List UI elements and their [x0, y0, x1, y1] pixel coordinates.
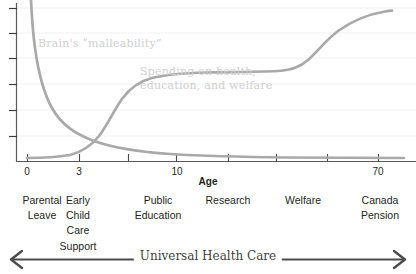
- x-tick-label-3: 3: [76, 166, 82, 177]
- x-tick-label-70: 70: [372, 166, 383, 177]
- x-tick-label-0: 0: [24, 166, 30, 177]
- x-axis-title: Age: [199, 176, 218, 187]
- universal-health-care-label: Universal Health Care: [134, 249, 282, 263]
- curve-label-spending: Spending on health, education, and welfa…: [140, 65, 272, 93]
- x-tick-label-10: 10: [171, 166, 182, 177]
- program-label-parental-leave: Parental Leave: [22, 193, 61, 223]
- program-label-research: Research: [206, 193, 251, 208]
- curve-label-spending-line2: education, and welfare: [140, 79, 272, 93]
- chart-figure: Brain's “malleability” Spending on healt…: [0, 0, 416, 274]
- program-label-welfare: Welfare: [285, 193, 321, 208]
- curve-label-brain-malleability: Brain's “malleability”: [38, 37, 162, 51]
- program-label-canada-pension: Canada Pension: [361, 193, 399, 223]
- y-axis-ticks: [9, 9, 17, 137]
- program-label-public-education: Public Education: [135, 193, 182, 223]
- curve-label-spending-line1: Spending on health,: [140, 65, 272, 79]
